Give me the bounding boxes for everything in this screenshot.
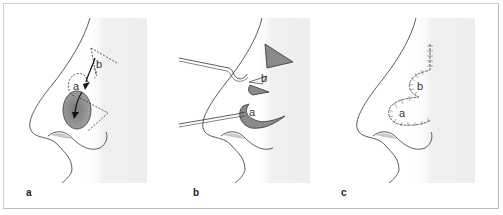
label-a: a bbox=[249, 106, 256, 118]
nose-diagram-c: b a bbox=[333, 0, 503, 215]
panel-label: b bbox=[193, 187, 199, 198]
nose-diagram-b: b a bbox=[165, 0, 335, 215]
nose-diagram-a: b a bbox=[0, 0, 170, 215]
label-b: b bbox=[261, 72, 267, 84]
label-a: a bbox=[399, 107, 406, 119]
panel-label: c bbox=[341, 187, 347, 198]
panel-b: b a b bbox=[165, 0, 335, 215]
panel-a: b a a bbox=[0, 0, 170, 215]
label-b: b bbox=[417, 80, 423, 92]
panel-label: a bbox=[26, 187, 32, 198]
panel-c: b a c bbox=[333, 0, 503, 215]
label-b: b bbox=[96, 58, 102, 70]
label-a: a bbox=[73, 80, 80, 92]
